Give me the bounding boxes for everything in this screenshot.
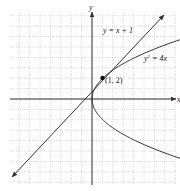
line-y-equals-x-plus-1	[12, 15, 164, 177]
x-axis-label: x	[176, 95, 180, 104]
line-equation-label: y = x + 1	[102, 26, 133, 35]
point-label: (1, 2)	[105, 76, 123, 85]
parabola-equation-label: y2 = 4x	[143, 54, 167, 63]
y-axis-label: y	[88, 3, 93, 12]
graph-figure: x y (1, 2) y = x + 1 y2 = 4x	[0, 0, 180, 191]
